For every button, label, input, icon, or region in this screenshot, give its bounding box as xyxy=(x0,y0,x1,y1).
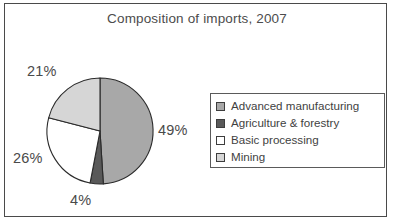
legend-item-label: Basic processing xyxy=(231,134,319,146)
legend-swatch-icon xyxy=(216,136,225,145)
legend-item-agriculture-forestry: Agriculture & forestry xyxy=(216,115,384,131)
chart-title: Composition of imports, 2007 xyxy=(0,11,394,26)
legend-item-label: Advanced manufacturing xyxy=(231,100,359,112)
pie-chart xyxy=(46,77,154,185)
legend-swatch-icon xyxy=(216,153,225,162)
slice-label-mining: 21% xyxy=(27,63,57,79)
legend-item-label: Mining xyxy=(231,151,265,163)
legend-item-basic-processing: Basic processing xyxy=(216,132,384,148)
legend-item-mining: Mining xyxy=(216,149,384,165)
legend-swatch-icon xyxy=(216,119,225,128)
slice-label-agriculture-forestry: 4% xyxy=(70,192,91,208)
slice-label-basic-processing: 26% xyxy=(13,150,43,166)
pie-slice xyxy=(100,78,153,184)
pie-svg xyxy=(46,77,154,185)
slice-label-advanced-manufacturing: 49% xyxy=(158,122,188,138)
legend: Advanced manufacturing Agriculture & for… xyxy=(210,93,385,168)
figure-container: Composition of imports, 2007 49% 4% 26% … xyxy=(0,0,394,224)
legend-swatch-icon xyxy=(216,102,225,111)
legend-item-label: Agriculture & forestry xyxy=(231,117,339,129)
pie-slices xyxy=(47,78,153,184)
legend-item-advanced-manufacturing: Advanced manufacturing xyxy=(216,98,384,114)
